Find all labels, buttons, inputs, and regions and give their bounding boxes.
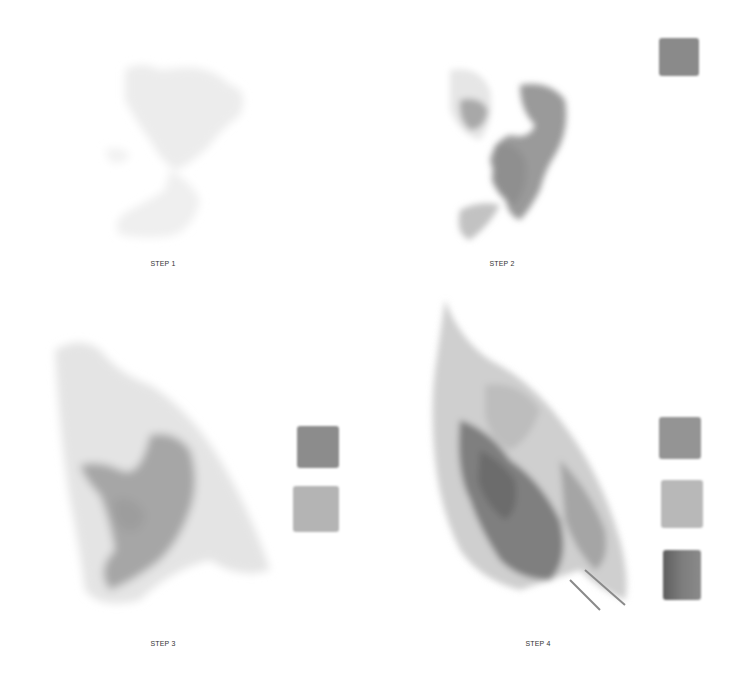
step-3-painting: [40, 320, 280, 620]
step-3-label: STEP 3: [123, 640, 203, 647]
step-4-swatch-2: [661, 480, 703, 528]
step-2-painting: [420, 40, 600, 260]
step-4-swatch-1: [659, 417, 701, 459]
step-2-label: STEP 2: [462, 260, 542, 267]
step-3-swatch-1: [297, 426, 339, 468]
step-2-wash: [420, 40, 600, 260]
step-3-wash: [40, 320, 280, 620]
step-4-label: STEP 4: [498, 640, 578, 647]
step-1-painting: [80, 50, 280, 250]
step-4-wash: [410, 280, 640, 620]
step-1-label: STEP 1: [123, 260, 203, 267]
step-4-painting: [410, 280, 640, 620]
step-4-swatch-3: [663, 550, 701, 600]
step-1-wash: [80, 50, 280, 250]
step-3-swatch-2: [293, 486, 339, 532]
step-2-swatch-1: [659, 38, 699, 76]
